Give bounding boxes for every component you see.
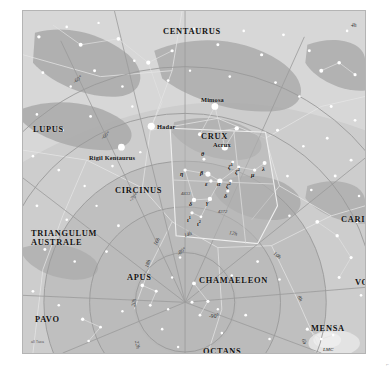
sky-map-graphics [23,11,365,353]
star-chart-root: CENTAURUS VELA LUPUS CRUX CIRCINUS TRIAN… [0,0,391,368]
sky-background-layer [23,11,365,353]
corner-mark: ⌐ [386,361,389,367]
sky-map-plate: CENTAURUS VELA LUPUS CRUX CIRCINUS TRIAN… [22,10,366,354]
